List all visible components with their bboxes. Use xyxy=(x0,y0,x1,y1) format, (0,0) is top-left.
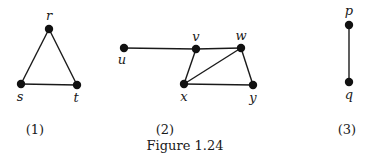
vertex-q xyxy=(345,78,353,86)
vertex-p xyxy=(345,21,353,29)
edge-u-v xyxy=(124,48,196,49)
vertex-r xyxy=(45,25,53,33)
vertex-label-u: u xyxy=(118,52,126,67)
edge-x-w xyxy=(184,48,241,84)
edge-r-s xyxy=(21,29,49,84)
figure-caption: Figure 1.24 xyxy=(147,138,224,153)
vertex-label-q: q xyxy=(345,87,353,102)
vertex-w xyxy=(237,44,245,52)
vertex-label-t: t xyxy=(73,90,79,105)
edge-x-y xyxy=(184,84,253,85)
vertex-u xyxy=(120,44,128,52)
edge-v-w xyxy=(196,48,241,49)
vertex-label-p: p xyxy=(345,3,354,18)
vertex-labels-layer: rstuvwxypq xyxy=(17,3,354,105)
figure-1-24: rstuvwxypq (1)(2)(3) Figure 1.24 xyxy=(0,0,370,160)
subfigure-label-3: (3) xyxy=(338,122,356,137)
vertex-v xyxy=(192,45,200,53)
edge-w-y xyxy=(241,48,253,85)
edge-r-t xyxy=(49,29,77,85)
vertex-y xyxy=(249,81,257,89)
edge-s-t xyxy=(21,84,77,85)
vertex-label-y: y xyxy=(248,90,257,105)
vertex-label-r: r xyxy=(46,8,53,23)
subfigure-label-2: (2) xyxy=(156,122,174,137)
vertex-label-s: s xyxy=(17,89,24,104)
subfigure-labels-layer: (1)(2)(3) xyxy=(26,122,356,137)
vertex-s xyxy=(17,80,25,88)
vertex-label-v: v xyxy=(192,29,200,44)
vertex-t xyxy=(73,81,81,89)
edge-v-x xyxy=(184,49,196,84)
subfigure-label-1: (1) xyxy=(26,122,44,137)
edges-layer xyxy=(21,25,349,85)
vertex-label-w: w xyxy=(235,28,246,43)
vertex-x xyxy=(180,80,188,88)
vertex-label-x: x xyxy=(180,89,188,104)
